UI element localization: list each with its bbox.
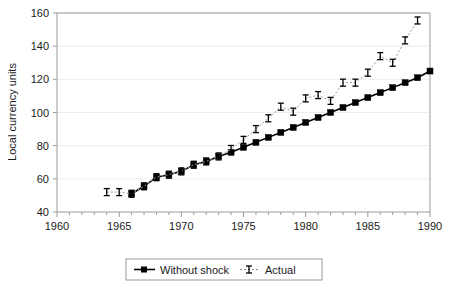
y-tick-label-120: 120	[31, 73, 49, 85]
data-point-1989	[415, 75, 421, 81]
line-chart: 406080100120140160 196019651970197519801…	[0, 0, 450, 287]
y-tick-label-100: 100	[31, 107, 49, 119]
x-tick-label-1970: 1970	[169, 220, 193, 232]
y-tick-label-80: 80	[37, 140, 49, 152]
y-tick-label-60: 60	[37, 173, 49, 185]
x-tick-label-1985: 1985	[356, 220, 380, 232]
data-point-1978	[278, 129, 284, 135]
x-tick-label-1980: 1980	[293, 220, 317, 232]
chart-legend: Without shock Actual	[126, 259, 322, 280]
legend-marker-square	[141, 267, 147, 273]
data-point-1981	[315, 114, 321, 120]
x-tick-label-1975: 1975	[231, 220, 255, 232]
y-tick-label-40: 40	[37, 206, 49, 218]
legend-label-actual: Actual	[265, 264, 296, 276]
y-axis-title: Local currency units	[6, 63, 18, 161]
y-tick-label-140: 140	[31, 40, 49, 52]
data-point-1982	[328, 110, 334, 116]
x-tick-label-1965: 1965	[107, 220, 131, 232]
data-point-1985	[365, 95, 371, 101]
data-point-1977	[265, 134, 271, 140]
data-point-1987	[390, 85, 396, 91]
x-tick-label-1960: 1960	[45, 220, 69, 232]
chart-container: 406080100120140160 196019651970197519801…	[0, 0, 450, 287]
x-tick-label-1990: 1990	[418, 220, 442, 232]
data-point-1983	[340, 105, 346, 111]
data-point-1976	[253, 139, 259, 145]
data-point-1984	[352, 100, 358, 106]
y-tick-label-160: 160	[31, 7, 49, 19]
chart-background	[0, 0, 450, 287]
data-point-1979	[290, 124, 296, 130]
data-point-1980	[303, 119, 309, 125]
legend-label-without-shock: Without shock	[160, 264, 230, 276]
data-point-1975	[241, 144, 247, 150]
data-point-1986	[377, 90, 383, 96]
data-point-1990	[427, 68, 433, 74]
data-point-1988	[402, 80, 408, 86]
